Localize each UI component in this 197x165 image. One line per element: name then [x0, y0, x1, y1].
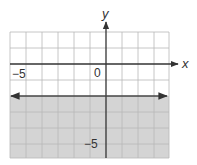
y-axis-label: y	[101, 6, 110, 21]
origin-label: 0	[94, 66, 101, 80]
y-tick-label-neg5: −5	[84, 137, 98, 151]
x-axis-label: x	[181, 56, 189, 71]
x-tick-label-neg5: −5	[12, 67, 26, 81]
coordinate-plane: x y 0 −5 −5	[0, 0, 197, 165]
